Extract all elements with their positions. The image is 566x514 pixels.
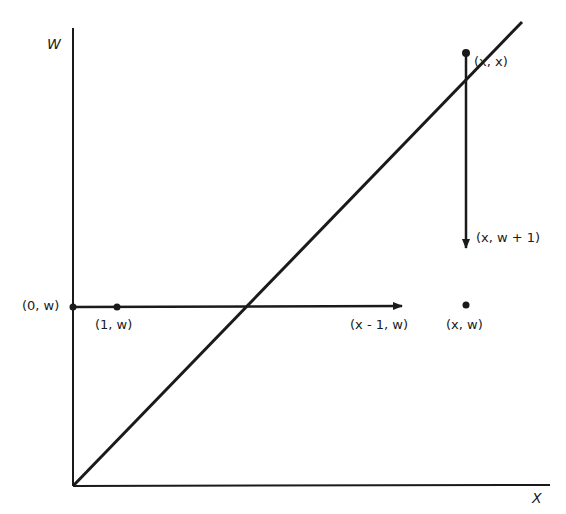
label-x-w: (x, w) (446, 317, 483, 332)
horizontal-arrow (73, 306, 402, 307)
label-x-x: (x, x) (474, 54, 508, 69)
label-x-w-plus-1: (x, w + 1) (476, 230, 540, 245)
x-axis-label: X (532, 490, 542, 506)
point-x-w (463, 302, 470, 309)
x-axis (73, 485, 550, 486)
y-axis-label: W (47, 36, 61, 52)
label-1-w: (1, w) (95, 317, 132, 332)
point-1-w (114, 304, 121, 311)
diagonal-line (73, 22, 522, 486)
label-0-w: (0, w) (22, 298, 59, 313)
point-0-w (70, 304, 77, 311)
diagram-canvas (0, 0, 566, 514)
label-x-minus-1-w: (x - 1, w) (350, 317, 408, 332)
point-x-x (462, 49, 470, 57)
